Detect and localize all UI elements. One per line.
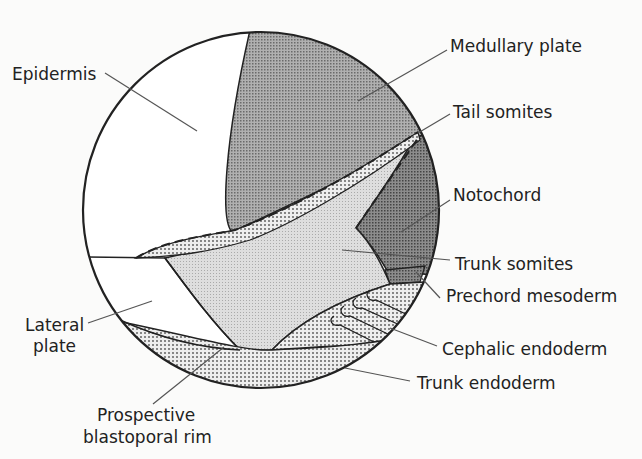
label-blastoporal-rim-line2: blastoporal rim <box>83 427 212 447</box>
label-trunk-somites: Trunk somites <box>454 254 573 274</box>
label-cephalic-endoderm: Cephalic endoderm <box>442 339 607 359</box>
label-lateral-plate-line1: Lateral <box>25 315 84 335</box>
label-lateral-plate-line2: plate <box>33 336 76 356</box>
label-medullary-plate: Medullary plate <box>450 36 582 56</box>
label-trunk-endoderm: Trunk endoderm <box>416 373 556 393</box>
label-blastoporal-rim-line1: Prospective <box>97 405 195 425</box>
fate-map-diagram: Epidermis Medullary plate Tail somites N… <box>0 0 642 459</box>
label-epidermis: Epidermis <box>12 64 96 84</box>
label-tail-somites: Tail somites <box>452 102 553 122</box>
label-prechord-mesoderm: Prechord mesoderm <box>446 286 617 306</box>
label-notochord: Notochord <box>453 185 541 205</box>
